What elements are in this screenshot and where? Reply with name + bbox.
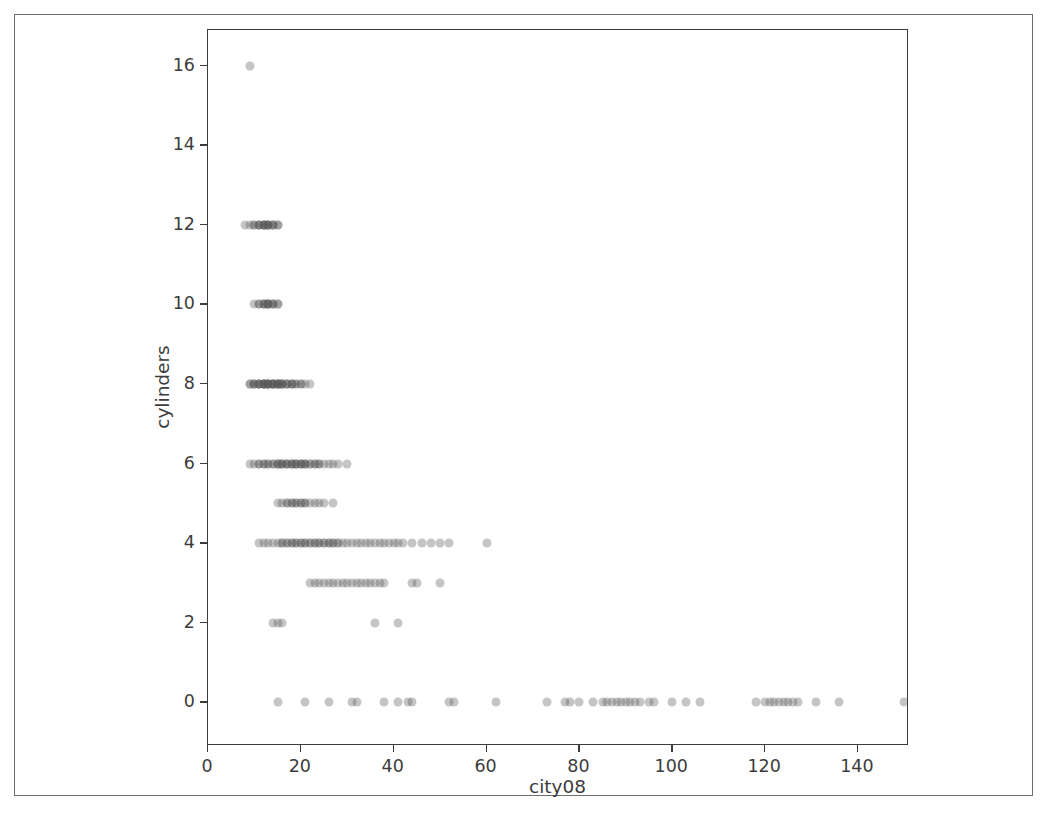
scatter-point [635, 698, 644, 707]
y-tick-mark [200, 224, 207, 225]
scatter-point [329, 499, 338, 508]
scatter-point [273, 220, 282, 229]
scatter-point [371, 618, 380, 627]
x-axis-label: city08 [207, 776, 908, 797]
y-tick-mark [200, 701, 207, 702]
scatter-point [482, 539, 491, 548]
scatter-point [450, 698, 459, 707]
scatter-point [343, 459, 352, 468]
scatter-point [394, 698, 403, 707]
x-tick-label: 100 [655, 756, 688, 776]
scatter-point [324, 698, 333, 707]
scatter-point [575, 698, 584, 707]
x-tick-mark [578, 745, 579, 752]
scatter-point [398, 539, 407, 548]
scatter-point [301, 698, 310, 707]
scatter-point [333, 459, 342, 468]
x-tick-label: 20 [289, 756, 311, 776]
scatter-point [812, 698, 821, 707]
x-tick-mark [486, 745, 487, 752]
scatter-point [436, 539, 445, 548]
y-tick-mark [200, 463, 207, 464]
scatter-point [668, 698, 677, 707]
y-tick-mark [200, 383, 207, 384]
scatter-point [273, 300, 282, 309]
scatter-point [542, 698, 551, 707]
x-tick-label: 60 [474, 756, 496, 776]
scatter-point [417, 539, 426, 548]
x-tick-mark [207, 745, 208, 752]
scatter-point [445, 539, 454, 548]
scatter-point [412, 578, 421, 587]
x-tick-mark [393, 745, 394, 752]
scatter-point [408, 698, 417, 707]
scatter-point [394, 618, 403, 627]
y-tick-mark [200, 65, 207, 66]
scatter-point [589, 698, 598, 707]
x-tick-label: 120 [747, 756, 780, 776]
scatter-point [436, 578, 445, 587]
x-tick-mark [764, 745, 765, 752]
scatter-point [566, 698, 575, 707]
x-tick-label: 40 [382, 756, 404, 776]
scatter-plot-surface [208, 30, 907, 744]
y-tick-mark [200, 144, 207, 145]
scatter-point [320, 499, 329, 508]
scatter-point [426, 539, 435, 548]
scatter-point [273, 698, 282, 707]
x-tick-mark [300, 745, 301, 752]
scatter-point [491, 698, 500, 707]
y-tick-mark [200, 303, 207, 304]
scatter-point [245, 61, 254, 70]
scatter-point [278, 618, 287, 627]
scatter-point [793, 698, 802, 707]
scatter-point [306, 380, 315, 389]
scatter-point [900, 698, 907, 707]
x-tick-label: 0 [201, 756, 212, 776]
scatter-point [682, 698, 691, 707]
x-tick-label: 80 [567, 756, 589, 776]
scatter-point [380, 578, 389, 587]
scatter-point [408, 539, 417, 548]
scatter-point [380, 698, 389, 707]
scatter-point [835, 698, 844, 707]
figure-container: 020406080100120140 0246810121416 city08 … [14, 14, 1033, 796]
page-canvas: 020406080100120140 0246810121416 city08 … [0, 0, 1050, 820]
x-tick-mark [857, 745, 858, 752]
scatter-point [751, 698, 760, 707]
y-tick-mark [200, 542, 207, 543]
scatter-point [696, 698, 705, 707]
x-tick-mark [671, 745, 672, 752]
scatter-point [649, 698, 658, 707]
y-tick-mark [200, 622, 207, 623]
scatter-point [352, 698, 361, 707]
y-axis-label: cylinders [152, 29, 176, 745]
x-tick-label: 140 [840, 756, 873, 776]
plot-axes-frame [207, 29, 908, 745]
